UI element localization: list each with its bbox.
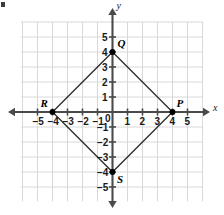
- x-axis-arrow-left: [8, 108, 15, 116]
- y-axis-label: y: [117, 1, 121, 11]
- vertex-label-r: R: [41, 98, 48, 109]
- x-tick-label: 1: [125, 117, 131, 127]
- x-axis-arrow-right: [203, 108, 210, 116]
- x-tick-label: 5: [185, 117, 191, 127]
- y-tick-label: 3: [102, 63, 108, 73]
- x-tick-label: 2: [140, 117, 146, 127]
- x-tick-label: −5: [33, 117, 44, 127]
- vertex-label-s: S: [117, 174, 123, 185]
- coordinate-plane-figure: x y −5−4−3−2−112345543210−1−2−3−4−5 QPSR: [0, 0, 224, 215]
- vertex-dot-q: [110, 49, 116, 55]
- y-axis-arrow-down: [108, 201, 116, 208]
- x-tick-label: −4: [48, 117, 59, 127]
- y-tick-label: −4: [97, 168, 108, 178]
- y-tick-label: −1: [97, 123, 108, 133]
- x-tick-label: 4: [170, 117, 176, 127]
- plot-canvas: [0, 0, 224, 215]
- x-tick-label: 3: [155, 117, 161, 127]
- vertex-label-q: Q: [118, 38, 126, 49]
- vertex-dot-s: [110, 169, 116, 175]
- x-axis-label: x: [213, 103, 217, 113]
- y-tick-label: 4: [102, 48, 108, 58]
- vertex-dot-p: [170, 109, 176, 115]
- vertex-dot-r: [50, 109, 56, 115]
- y-tick-label: 2: [102, 78, 108, 88]
- vertex-label-p: P: [177, 98, 184, 109]
- y-axis-arrow-up: [108, 8, 116, 15]
- y-tick-label: −3: [97, 153, 108, 163]
- y-tick-label: −5: [97, 183, 108, 193]
- x-tick-label: −2: [78, 117, 89, 127]
- y-tick-label: 1: [102, 93, 108, 103]
- x-tick-label: −3: [63, 117, 74, 127]
- y-tick-label: −2: [97, 138, 108, 148]
- y-tick-label: 5: [102, 33, 108, 43]
